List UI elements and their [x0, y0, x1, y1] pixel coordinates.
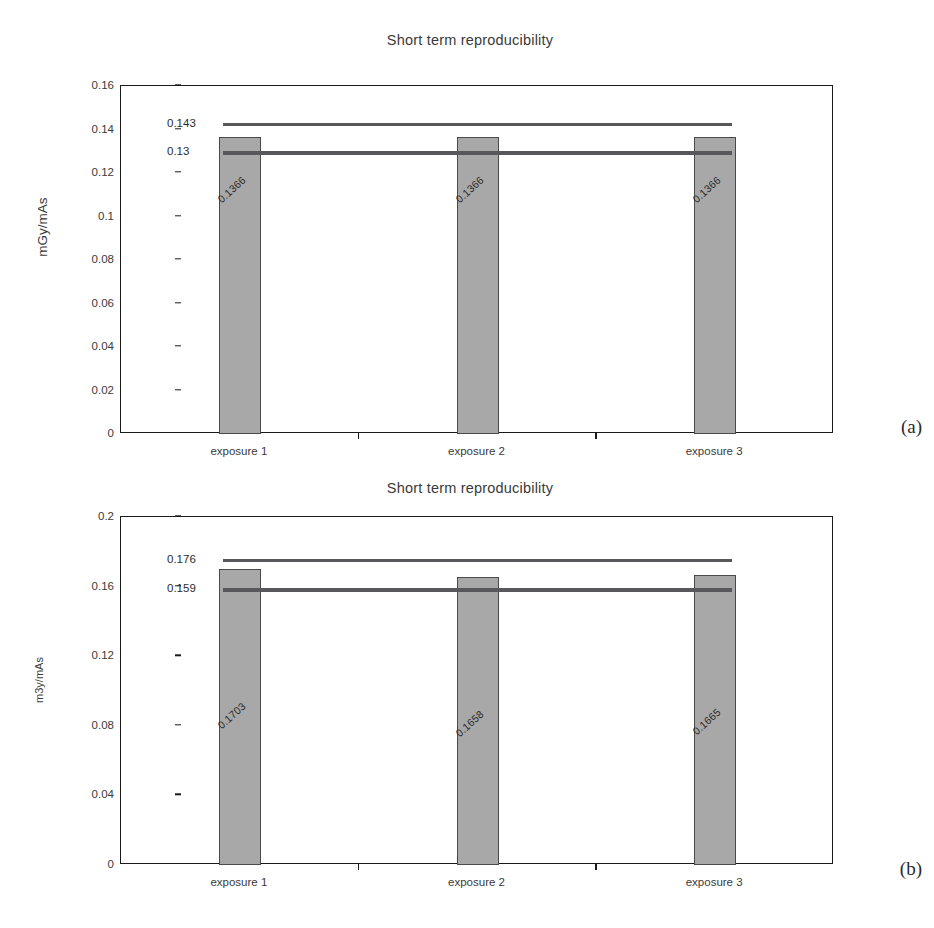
y-tick-mark: [175, 215, 181, 216]
plot-inner-a: 0.13660.13660.13660.1430.13: [121, 86, 832, 432]
y-tick-label: 0.12: [68, 649, 114, 661]
y-tick-label: 0.16: [68, 79, 114, 91]
reference-line-label-upper-tolerance: 0.143: [167, 117, 196, 129]
y-axis-title-b: m3y/mAs: [33, 620, 51, 740]
reference-line-lower-tolerance: [223, 588, 732, 591]
x-tick-mark: [358, 433, 359, 439]
x-tick-mark: [595, 864, 596, 870]
plot-inner-b: 0.17030.16580.16650.1760.159: [121, 517, 832, 863]
y-tick-label: 0.12: [68, 166, 114, 178]
x-tick-label: exposure 1: [210, 876, 267, 888]
chart-title-b: Short term reproducibility: [120, 480, 820, 496]
y-tick-label: 0: [68, 858, 114, 870]
figure-b: Short term reproducibility 0.17030.16580…: [0, 466, 934, 906]
y-tick-label: 0.04: [68, 340, 114, 352]
y-tick-label: 0.16: [68, 580, 114, 592]
panel-label-b: (b): [900, 858, 922, 880]
y-tick-label: 0.1: [68, 210, 114, 222]
y-tick-label: 0: [68, 427, 114, 439]
panel-label-a: (a): [901, 416, 922, 438]
y-tick-mark: [175, 345, 181, 346]
y-tick-mark: [175, 515, 181, 516]
x-axis-ticks-a: exposure 1exposure 2exposure 3: [120, 433, 833, 467]
y-tick-label: 0.02: [68, 384, 114, 396]
y-tick-mark: [175, 654, 181, 655]
y-tick-label: 0.04: [68, 788, 114, 800]
reference-line-upper-tolerance: [223, 559, 732, 562]
y-tick-mark: [175, 84, 181, 85]
reference-line-label-upper-tolerance: 0.176: [167, 553, 196, 565]
figure-a: Short term reproducibility 0.13660.13660…: [0, 18, 934, 458]
y-tick-label: 0.06: [68, 297, 114, 309]
x-tick-mark: [595, 433, 596, 439]
y-tick-mark: [175, 302, 181, 303]
figure-page: Short term reproducibility 0.13660.13660…: [0, 0, 934, 928]
x-tick-label: exposure 1: [210, 445, 267, 457]
reference-line-label-lower-tolerance: 0.13: [167, 145, 189, 157]
x-tick-mark: [358, 864, 359, 870]
x-axis-ticks-b: exposure 1exposure 2exposure 3: [120, 864, 833, 898]
y-tick-mark: [175, 128, 181, 129]
y-tick-mark: [175, 794, 181, 795]
chart-title-a: Short term reproducibility: [120, 32, 820, 48]
x-tick-label: exposure 2: [448, 445, 505, 457]
y-axis-title-a: mGy/mAs: [35, 167, 53, 287]
y-tick-mark: [175, 585, 181, 586]
y-axis-ticks-a: 00.020.040.060.080.10.120.140.16: [62, 85, 114, 433]
reference-line-label-lower-tolerance: 0.159: [167, 582, 196, 594]
x-tick-label: exposure 2: [448, 876, 505, 888]
y-tick-label: 0.14: [68, 123, 114, 135]
reference-line-upper-tolerance: [223, 123, 732, 126]
y-tick-label: 0.2: [68, 510, 114, 522]
plot-area-a: 0.13660.13660.13660.1430.13: [120, 85, 833, 433]
y-tick-mark: [175, 171, 181, 172]
y-tick-mark: [175, 724, 181, 725]
x-tick-label: exposure 3: [686, 876, 743, 888]
y-tick-mark: [175, 258, 181, 259]
y-tick-mark: [175, 389, 181, 390]
x-tick-label: exposure 3: [686, 445, 743, 457]
y-axis-ticks-b: 00.040.080.120.160.2: [62, 516, 114, 864]
reference-line-lower-tolerance: [223, 151, 732, 154]
y-tick-label: 0.08: [68, 253, 114, 265]
plot-area-b: 0.17030.16580.16650.1760.159: [120, 516, 833, 864]
y-tick-label: 0.08: [68, 719, 114, 731]
